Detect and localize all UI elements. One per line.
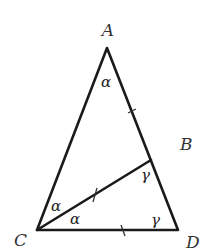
segment-cb	[37, 160, 151, 230]
angle-label-cbd: γ	[141, 166, 150, 184]
triangle-diagram: A B C D α α α γ γ	[0, 0, 216, 252]
vertex-label-b: B	[179, 134, 193, 154]
angle-label-acb: α	[51, 197, 61, 215]
vertex-label-a: A	[100, 20, 114, 40]
angle-label-bdc: γ	[151, 211, 160, 229]
angle-label-a: α	[101, 73, 111, 91]
angle-label-bcd: α	[70, 210, 80, 228]
vertex-label-c: C	[14, 230, 27, 250]
vertex-label-d: D	[185, 232, 200, 252]
